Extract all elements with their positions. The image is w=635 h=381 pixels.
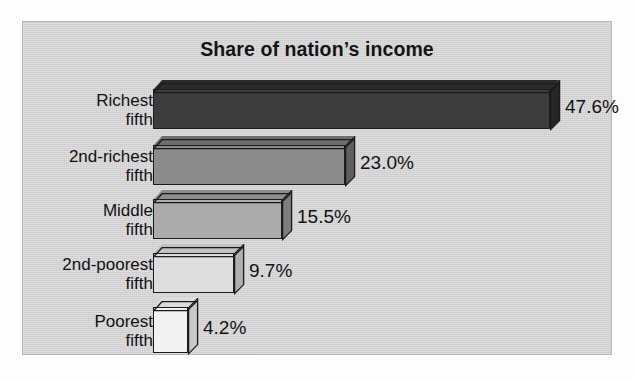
chart-panel: Share of nation’s income Richest fifth47… <box>22 21 612 355</box>
chart-screenshot: Share of nation’s income Richest fifth47… <box>0 0 635 381</box>
bar-row: Richest fifth47.6% <box>23 80 611 129</box>
bar <box>153 89 550 129</box>
value-label: 4.2% <box>203 317 246 339</box>
category-label: Middle fifth <box>0 201 153 240</box>
category-label: 2nd-richest fifth <box>0 147 153 186</box>
bar-front-face <box>153 253 234 293</box>
bar-row: Poorest fifth4.2% <box>23 298 611 353</box>
value-label: 9.7% <box>249 260 292 282</box>
bar-front-face <box>153 199 282 239</box>
bar <box>153 307 188 353</box>
bar-front-face <box>153 89 550 129</box>
bar <box>153 253 234 293</box>
bar-row: 2nd-poorest fifth9.7% <box>23 244 611 293</box>
bar-row: Middle fifth15.5% <box>23 190 611 239</box>
category-label: 2nd-poorest fifth <box>0 255 153 294</box>
value-label: 47.6% <box>565 96 619 118</box>
bar-side-face <box>188 298 199 355</box>
chart-title: Share of nation’s income <box>23 38 611 61</box>
bar <box>153 199 282 239</box>
category-label: Poorest fifth <box>0 312 153 351</box>
value-label: 15.5% <box>297 206 351 228</box>
bar-front-face <box>153 307 188 353</box>
value-label: 23.0% <box>360 152 414 174</box>
category-label: Richest fifth <box>0 91 153 130</box>
plot-area: Richest fifth47.6%2nd-richest fifth23.0%… <box>23 72 611 356</box>
bar-row: 2nd-richest fifth23.0% <box>23 136 611 185</box>
bar-front-face <box>153 145 345 185</box>
bar <box>153 145 345 185</box>
